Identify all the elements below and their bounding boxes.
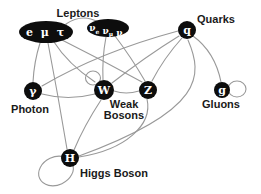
label-weak-bosons: WeakBosons — [104, 98, 144, 121]
node-charged-leptons: e μ τ — [19, 21, 73, 43]
edge-charged-leptons-photon — [33, 43, 40, 82]
node-photon: γ — [24, 82, 42, 100]
edge-photon-w-boson — [42, 94, 95, 98]
label-higgs-boson: Higgs Boson — [80, 167, 148, 179]
node-label-z-boson: Z — [144, 84, 152, 97]
node-label-w-boson: W — [97, 84, 111, 97]
edge-quark-gluon — [193, 36, 221, 82]
edge-quark-z-boson — [152, 38, 182, 81]
node-gluon: g — [214, 82, 230, 98]
label-leptons: Leptons — [57, 7, 100, 19]
node-label-charged-leptons: e μ τ — [26, 26, 66, 39]
node-label-photon: γ — [29, 85, 37, 98]
node-z-boson: Z — [139, 81, 157, 99]
edge-w-boson-higgs — [74, 100, 101, 150]
edge-w-boson-z-boson — [114, 91, 139, 93]
self-loop-gluon — [228, 81, 246, 97]
node-higgs: H — [61, 149, 79, 167]
node-neutrinos: νe νμ ντ — [87, 19, 129, 39]
node-label-gluon: g — [218, 84, 226, 97]
standard-model-diagram: e μ τνe νμ ντqγWZgHLeptonsQuarksPhotonWe… — [0, 0, 261, 194]
label-quarks: Quarks — [197, 13, 235, 25]
edge-quark-w-boson — [112, 36, 179, 83]
edge-neutrinos-w-boson — [103, 37, 106, 80]
node-label-quark: q — [183, 24, 191, 37]
node-quark: q — [178, 21, 196, 39]
node-w-boson: W — [94, 80, 114, 100]
label-photon: Photon — [11, 103, 49, 115]
node-label-higgs: H — [65, 152, 75, 165]
diagram-canvas: e μ τνe νμ ντqγWZgHLeptonsQuarksPhotonWe… — [0, 0, 261, 194]
label-gluons: Gluons — [202, 98, 240, 110]
